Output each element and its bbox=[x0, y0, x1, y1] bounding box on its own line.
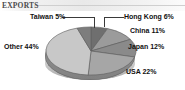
pie-slices-svg bbox=[45, 26, 137, 76]
leader-line-hongkong bbox=[104, 17, 124, 18]
pie-label-taiwan: Taiwan 5% bbox=[30, 13, 65, 21]
slice-group bbox=[46, 27, 136, 75]
leader-line-hongkong-drop bbox=[104, 17, 105, 27]
pie-label-usa: USA 22% bbox=[126, 68, 156, 76]
header-band: EXPORTS bbox=[0, 0, 185, 11]
chart-area: Taiwan 5% Hong Kong 6% China 11% Japan 1… bbox=[0, 11, 185, 90]
exports-pie-chart-figure: EXPORTS Taiwan 5% Hong Kong 6% China 11 bbox=[0, 0, 185, 90]
header-divider bbox=[34, 5, 185, 6]
pie-label-japan: Japan 12% bbox=[128, 43, 164, 51]
pie-chart bbox=[44, 19, 136, 81]
leader-line-taiwan bbox=[62, 17, 95, 18]
pie-label-hong-kong: Hong Kong 6% bbox=[124, 13, 174, 21]
pie-top-face bbox=[45, 26, 135, 74]
page-title: EXPORTS bbox=[2, 1, 39, 10]
pie-label-china: China 11% bbox=[130, 27, 165, 35]
leader-line-taiwan-drop bbox=[94, 17, 95, 28]
pie-label-other: Other 44% bbox=[4, 43, 39, 51]
